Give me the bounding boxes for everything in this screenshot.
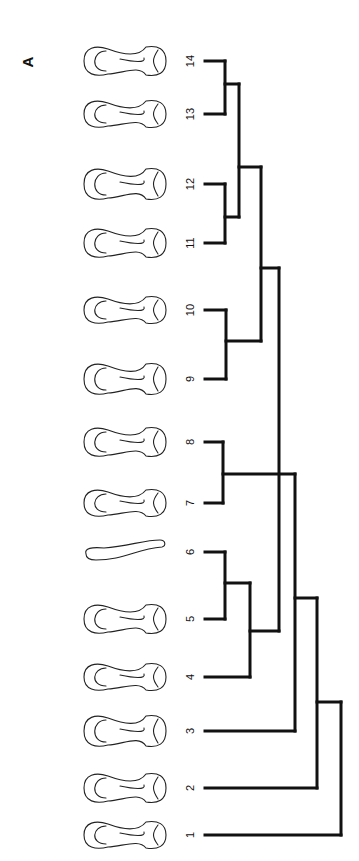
leaf-label-9: 9 <box>184 376 196 382</box>
leaf-label-8: 8 <box>184 439 196 445</box>
leaf-label-5: 5 <box>184 616 196 622</box>
dendrogram-tree <box>0 0 359 861</box>
leaf-label-12: 12 <box>184 178 196 190</box>
leaf-label-2: 2 <box>184 785 196 791</box>
dendrogram-figure: A 1234567891011121314 <box>0 0 359 861</box>
leaf-label-14: 14 <box>184 55 196 67</box>
leaf-label-7: 7 <box>184 500 196 506</box>
leaf-label-1: 1 <box>184 832 196 838</box>
leaf-label-11: 11 <box>184 237 196 248</box>
leaf-label-10: 10 <box>184 304 196 316</box>
leaf-label-6: 6 <box>184 549 196 555</box>
leaf-label-4: 4 <box>184 674 196 680</box>
leaf-label-13: 13 <box>184 108 196 120</box>
leaf-label-3: 3 <box>184 728 196 734</box>
